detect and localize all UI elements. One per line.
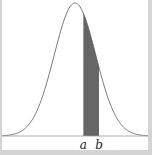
tick-label-b: b [95, 138, 103, 152]
tick-label-a: a [80, 138, 87, 152]
bell-curve [2, 3, 148, 136]
chart-frame: a b [2, 0, 148, 150]
normal-curve-chart: a b [2, 0, 152, 155]
shaded-area [83, 13, 99, 136]
